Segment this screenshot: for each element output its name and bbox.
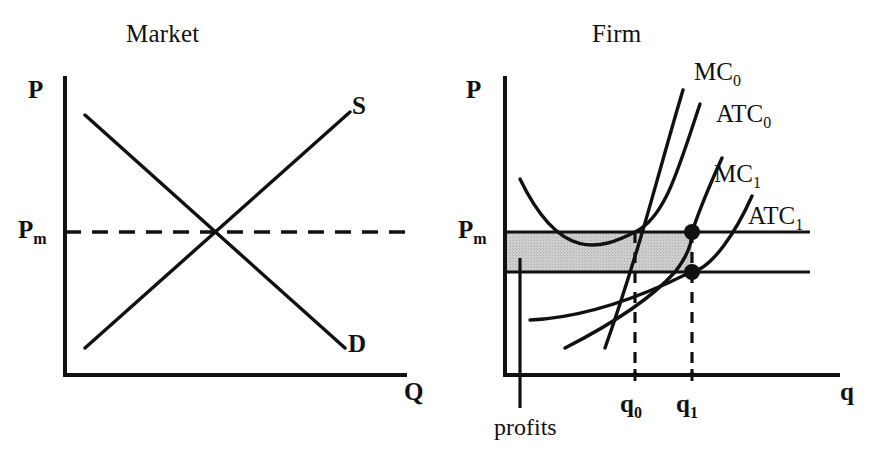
- market-demand-label: D: [348, 330, 366, 358]
- profits-label: profits: [494, 414, 557, 441]
- firm-y-axis-label: P: [466, 76, 481, 104]
- firm-x-axis-label: q: [840, 378, 854, 406]
- market-price-label: Pm: [18, 216, 47, 244]
- curve-label-atc1-subscript: 1: [795, 216, 803, 233]
- market-price-label-text: P: [18, 216, 33, 243]
- curve-label-atc0-text: ATC: [716, 100, 763, 127]
- market-supply-label: S: [352, 92, 366, 120]
- firm-panel-graphics: [505, 78, 838, 408]
- curve-mc0: [605, 90, 683, 348]
- profit-shaded-region: [505, 232, 692, 272]
- curve-label-mc1: MC1: [714, 160, 761, 188]
- curve-label-mc0-text: MC: [694, 58, 733, 85]
- point-mc1-pm-intersection: [684, 224, 700, 240]
- firm-q1-label: q1: [676, 390, 698, 418]
- firm-price-label: Pm: [458, 216, 487, 244]
- firm-q0-label-subscript: 0: [634, 404, 642, 421]
- curve-label-atc1: ATC1: [748, 202, 803, 230]
- curve-label-mc0: MC0: [694, 58, 741, 86]
- curve-label-mc0-subscript: 0: [733, 72, 741, 89]
- market-price-label-subscript: m: [33, 230, 46, 247]
- market-x-axis-label: Q: [404, 378, 423, 406]
- firm-q1-label-text: q: [676, 390, 690, 417]
- curve-label-atc1-text: ATC: [748, 202, 795, 229]
- firm-q1-label-subscript: 1: [690, 404, 698, 421]
- market-supply-curve: [85, 112, 350, 348]
- economics-figure: Market Firm: [0, 0, 879, 459]
- firm-price-label-text: P: [458, 216, 473, 243]
- market-y-axis-label: P: [28, 76, 43, 104]
- point-atc1-minimum: [684, 264, 700, 280]
- firm-q0-label: q0: [620, 390, 642, 418]
- firm-price-label-subscript: m: [473, 230, 486, 247]
- firm-q0-label-text: q: [620, 390, 634, 417]
- curve-label-mc1-subscript: 1: [753, 174, 761, 191]
- curve-label-atc0-subscript: 0: [763, 114, 771, 131]
- curve-label-mc1-text: MC: [714, 160, 753, 187]
- curve-label-atc0: ATC0: [716, 100, 771, 128]
